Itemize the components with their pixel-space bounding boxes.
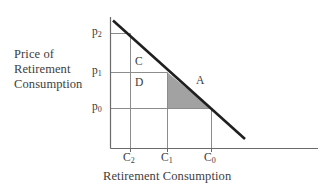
x-tick-label-c2-sub: 2 xyxy=(131,156,135,165)
region-label-c: C xyxy=(135,55,143,69)
x-tick-label-c2: C2 xyxy=(123,151,135,165)
y-tick-label-p2-sub: 2 xyxy=(98,30,102,39)
y-axis-title: Price of Retirement Consumption xyxy=(14,47,82,91)
y-tick-label-p2: p2 xyxy=(92,25,102,39)
y-axis-title-line-3: Consumption xyxy=(14,77,82,92)
y-tick-label-p1: p1 xyxy=(92,64,102,78)
y-tick-label-p2-base: p xyxy=(92,25,98,37)
y-tick-label-p0-base: p xyxy=(92,100,98,112)
x-tick-label-c0: C0 xyxy=(204,151,216,165)
y-axis-title-line-2: Retirement xyxy=(14,62,82,77)
x-tick-label-c0-base: C xyxy=(204,151,212,163)
x-tick-label-c0-sub: 0 xyxy=(212,156,216,165)
x-axis-title: Retirement Consumption xyxy=(103,169,231,184)
demand-curve-line xyxy=(113,21,245,140)
y-tick-label-p1-base: p xyxy=(92,64,98,76)
y-tick-label-p0-sub: 0 xyxy=(98,105,102,114)
region-label-d: D xyxy=(135,76,143,90)
region-label-a: A xyxy=(196,74,204,88)
x-tick-label-c1: C1 xyxy=(161,151,173,165)
x-tick-label-c1-sub: 1 xyxy=(169,156,173,165)
x-tick-label-c2-base: C xyxy=(123,151,131,163)
y-axis-title-line-1: Price of xyxy=(14,47,82,62)
economics-demand-curve-figure: Price of Retirement Consumption Retireme… xyxy=(0,0,331,191)
y-tick-label-p0: p0 xyxy=(92,100,102,114)
y-tick-label-p1-sub: 1 xyxy=(98,69,102,78)
x-tick-label-c1-base: C xyxy=(161,151,169,163)
